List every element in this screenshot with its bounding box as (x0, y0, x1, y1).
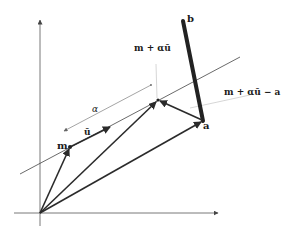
label-b: b (187, 13, 194, 24)
vector-origin-to-m (40, 149, 69, 213)
label-m: m (57, 140, 68, 151)
alpha-dimension-line (64, 85, 151, 131)
label-a: a (203, 120, 210, 131)
label-m-alpha-u-minus-a: m + αū − a (224, 87, 281, 97)
line-m-alpha-u (20, 57, 240, 174)
label-alpha: α (92, 104, 98, 114)
label-u: ū (84, 127, 91, 137)
point-m (68, 145, 72, 149)
leader-m-alpha-u (156, 64, 157, 98)
diagram-canvas: b a m ū α m + αū m + αū − a (0, 0, 299, 232)
label-m-alpha-u: m + αū (134, 43, 171, 53)
segment-b (183, 21, 203, 121)
alpha-dimension-end (150, 84, 152, 86)
vector-a-to-proj (160, 101, 202, 120)
point-proj (156, 98, 159, 101)
